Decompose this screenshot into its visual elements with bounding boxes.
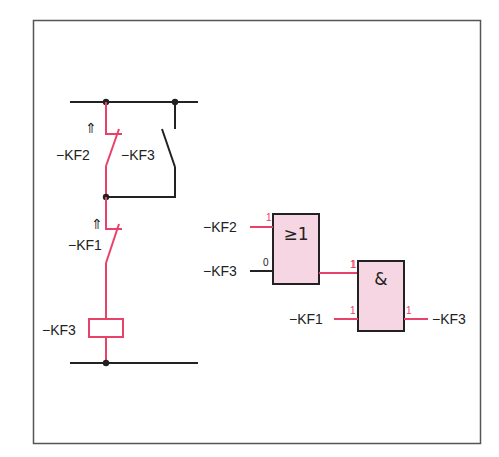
or-gate-symbol: ≥1 bbox=[283, 224, 308, 244]
contact-kf1 bbox=[106, 197, 122, 319]
pin-state: 1 bbox=[406, 305, 412, 316]
label-or-input-kf3: −KF3 bbox=[203, 263, 237, 279]
label-and-input-kf1: −KF1 bbox=[289, 311, 323, 327]
label-and-output-kf3: −KF3 bbox=[432, 311, 466, 327]
label-kf2: −KF2 bbox=[56, 147, 90, 163]
pin-state: 0 bbox=[263, 257, 269, 268]
actuator-arrow-icon: ⇑ bbox=[91, 216, 103, 232]
label-kf3-contact: −KF3 bbox=[121, 147, 155, 163]
and-gate-symbol: & bbox=[374, 269, 387, 289]
relay-logic-diagram: ⇑ −KF2 −KF3 ⇑ −KF1 −KF3 ≥1 1 −KF2 0 −KF3… bbox=[0, 0, 499, 457]
label-coil-kf3: −KF3 bbox=[42, 322, 76, 338]
pin-state: 1 bbox=[266, 212, 272, 223]
coil-kf3 bbox=[89, 319, 123, 337]
diagram-frame bbox=[34, 21, 481, 444]
pin-state: 1 bbox=[350, 305, 356, 316]
actuator-arrow-icon: ⇑ bbox=[85, 120, 97, 136]
contact-kf2 bbox=[106, 102, 122, 197]
label-or-input-kf2: −KF2 bbox=[203, 219, 237, 235]
junction-dot bbox=[103, 360, 109, 366]
label-kf1: −KF1 bbox=[68, 237, 102, 253]
pin-state: 1 bbox=[351, 259, 357, 270]
